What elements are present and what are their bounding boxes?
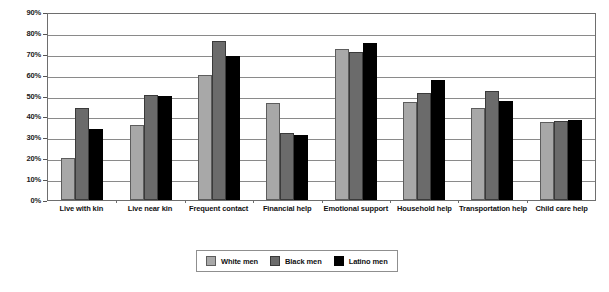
y-tick-label: 40% bbox=[27, 113, 41, 121]
legend-item[interactable]: Latino men bbox=[334, 256, 388, 266]
y-axis: 90%80%70%60%50%40%30%20%10%0% bbox=[0, 8, 44, 200]
x-axis-label: Financial help bbox=[253, 199, 322, 233]
bar-chart: 90%80%70%60%50%40%30%20%10%0% Live with … bbox=[0, 0, 609, 292]
y-tick-label: 60% bbox=[27, 72, 41, 80]
bar[interactable] bbox=[130, 125, 144, 200]
bar-group bbox=[458, 14, 526, 200]
bar[interactable] bbox=[499, 101, 513, 200]
x-axis-label: Live with kin bbox=[47, 199, 116, 233]
bar[interactable] bbox=[471, 108, 485, 200]
y-tick-label: 70% bbox=[27, 51, 41, 59]
bar-group bbox=[48, 14, 116, 200]
plot-area bbox=[47, 13, 596, 201]
y-tick-label: 10% bbox=[27, 176, 41, 184]
legend-swatch bbox=[206, 256, 216, 266]
y-tick-label: 80% bbox=[27, 30, 41, 38]
bar[interactable] bbox=[198, 75, 212, 200]
bar[interactable] bbox=[89, 129, 103, 200]
bar-group bbox=[322, 14, 390, 200]
legend-item[interactable]: White men bbox=[206, 256, 258, 266]
y-tick-label: 0% bbox=[31, 197, 41, 205]
x-axis-category-labels: Live with kinLive near kinFrequent conta… bbox=[47, 199, 596, 233]
bars-layer bbox=[48, 14, 595, 200]
bar-group bbox=[527, 14, 595, 200]
x-axis-label: Transportation help bbox=[459, 199, 528, 233]
legend-item[interactable]: Black men bbox=[270, 256, 322, 266]
y-tick-label: 50% bbox=[27, 93, 41, 101]
bar[interactable] bbox=[144, 95, 158, 200]
bar[interactable] bbox=[158, 96, 172, 200]
bar-group bbox=[390, 14, 458, 200]
bar[interactable] bbox=[266, 103, 280, 200]
bar[interactable] bbox=[335, 49, 349, 200]
x-axis-label: Frequent contact bbox=[184, 199, 253, 233]
chart-legend: White menBlack menLatino men bbox=[196, 250, 398, 272]
y-tick-label: 90% bbox=[27, 9, 41, 17]
x-axis-label: Household help bbox=[390, 199, 459, 233]
plot-region: 90%80%70%60%50%40%30%20%10%0% bbox=[0, 8, 609, 208]
bar[interactable] bbox=[485, 91, 499, 200]
legend-label: Latino men bbox=[349, 257, 388, 266]
legend-swatch bbox=[334, 256, 344, 266]
bar[interactable] bbox=[280, 133, 294, 200]
bar[interactable] bbox=[363, 43, 377, 200]
x-axis-label: Live near kin bbox=[116, 199, 185, 233]
legend-swatch bbox=[270, 256, 280, 266]
bar[interactable] bbox=[431, 80, 445, 200]
bar[interactable] bbox=[212, 41, 226, 200]
bar[interactable] bbox=[226, 56, 240, 200]
x-axis-label: Child care help bbox=[527, 199, 596, 233]
bar[interactable] bbox=[75, 108, 89, 200]
bar[interactable] bbox=[349, 52, 363, 200]
y-tick-label: 20% bbox=[27, 155, 41, 163]
bar[interactable] bbox=[568, 120, 582, 200]
bar-group bbox=[116, 14, 184, 200]
y-tick-label: 30% bbox=[27, 134, 41, 142]
bar[interactable] bbox=[554, 121, 568, 200]
bar[interactable] bbox=[61, 158, 75, 200]
bar-group bbox=[185, 14, 253, 200]
legend-label: Black men bbox=[285, 257, 322, 266]
bar[interactable] bbox=[403, 102, 417, 200]
bar[interactable] bbox=[417, 93, 431, 200]
bar[interactable] bbox=[294, 135, 308, 200]
bar[interactable] bbox=[540, 122, 554, 200]
x-axis-label: Emotional support bbox=[322, 199, 391, 233]
legend-label: White men bbox=[221, 257, 258, 266]
bar-group bbox=[253, 14, 321, 200]
